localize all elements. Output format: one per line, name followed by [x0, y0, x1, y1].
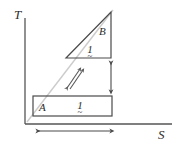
- x-axis-label: S: [158, 128, 165, 141]
- region-b-value-tilde-accent: ~: [85, 52, 95, 61]
- region-a-value-tilde-accent: ~: [75, 108, 85, 117]
- region-b-label: B: [99, 26, 106, 37]
- diagram-canvas: [0, 0, 178, 148]
- region-b-value-label: 1 ~: [85, 44, 95, 60]
- y-axis-label: T: [14, 8, 21, 21]
- ts-diagram-figure: T S A B 1 ~ 1 ~: [0, 0, 178, 148]
- region-a-label: A: [39, 102, 46, 113]
- region-a-value-label: 1 ~: [75, 100, 85, 116]
- diagonal-double-arrow: [67, 69, 80, 88]
- diagonal-double-arrow-secondary: [70, 70, 83, 89]
